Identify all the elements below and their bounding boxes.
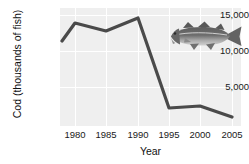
y-axis-title: Cod (thousands of fish) <box>11 3 23 125</box>
y-tick-15000: 15,000 <box>197 10 249 20</box>
x-tick-2005: 2005 <box>217 129 247 140</box>
cod-population-line-chart: 15,000 10,000 5,000 1980 1985 1990 1995 … <box>0 0 249 164</box>
x-tick-2000: 2000 <box>185 129 215 140</box>
fish-eye <box>174 32 176 34</box>
y-tick-10000: 10,000 <box>197 46 249 56</box>
x-tick-1995: 1995 <box>154 129 184 140</box>
x-tick-1990: 1990 <box>123 129 153 140</box>
x-axis-title: Year <box>60 145 241 157</box>
x-tick-1985: 1985 <box>91 129 121 140</box>
y-tick-5000: 5,000 <box>197 82 249 92</box>
x-tick-1980: 1980 <box>60 129 90 140</box>
